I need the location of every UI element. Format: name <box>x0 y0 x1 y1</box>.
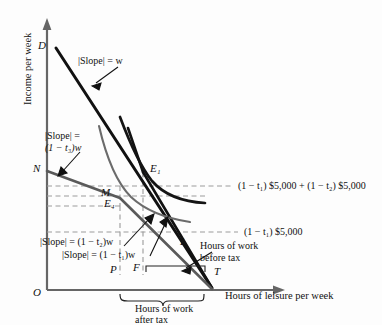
brace-label-after-tax-line2: after tax <box>135 314 168 325</box>
brace-before-tax <box>146 266 205 272</box>
brace-label-before-tax-line1: Hours of work <box>200 240 258 251</box>
leader-slope-t1 <box>150 222 166 256</box>
leader-slope-t1-head <box>160 217 168 227</box>
leader-slope-w-head <box>92 83 101 90</box>
y-axis-arrowhead <box>43 18 52 30</box>
diagram-canvas <box>0 0 382 325</box>
point-label-N: N <box>33 162 40 174</box>
x-axis-title: Hours of leisure per week <box>225 290 333 302</box>
brace-before-tax-path <box>146 266 205 272</box>
point-label-L: L <box>180 235 186 247</box>
brace-label-after-tax-line1: Hours of work <box>135 303 193 314</box>
slope-label-t1: |Slope| = (1 − t₁)w <box>62 249 135 260</box>
right-label-one-bracket: (1 − t₁) $5,000 <box>244 226 303 237</box>
right-label-two-brackets: (1 − t₁) $5,000 + (1 − t₂) $5,000 <box>238 180 366 191</box>
figure-taxation-labor-supply: Income per week Hours of leisure per wee… <box>0 0 382 325</box>
leader-slope-w <box>96 67 118 83</box>
slope-label-w: |Slope| = w <box>78 55 123 66</box>
slope-label-t3-line1: |Slope| = <box>45 130 80 141</box>
slope-label-t2: |Slope| = (1 − t₂)w <box>40 236 113 247</box>
point-label-E4: E₄ <box>104 197 115 209</box>
leader-slope-t3 <box>62 152 80 172</box>
point-label-D: D <box>38 39 46 51</box>
slope-label-t3-line2: (1 − t₃)w <box>45 142 81 153</box>
origin-label: O <box>33 286 41 298</box>
point-label-F: F <box>133 261 140 273</box>
point-label-P: P <box>110 263 117 275</box>
y-axis-title: Income per week <box>22 33 34 105</box>
indifference-curve-E1 <box>120 117 205 203</box>
brace-label-before-tax-line2: before tax <box>200 252 240 263</box>
point-label-T: T <box>214 265 220 277</box>
point-label-E1: E₁ <box>150 162 161 174</box>
